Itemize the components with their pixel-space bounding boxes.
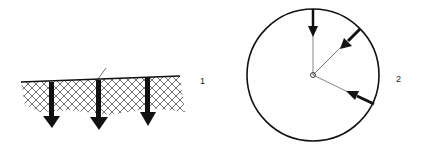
panel-2-label: 2 — [396, 74, 401, 84]
ground-hatching — [15, 70, 190, 120]
panel-1-ground-diagram — [15, 68, 190, 130]
inward-arrow-icon — [340, 29, 360, 49]
panel-2-circle-diagram — [247, 9, 379, 141]
inward-arrow-icon — [308, 9, 318, 37]
inward-arrow-icon — [346, 91, 374, 104]
panel-1-label: 1 — [200, 76, 205, 86]
figure-canvas — [0, 0, 421, 150]
